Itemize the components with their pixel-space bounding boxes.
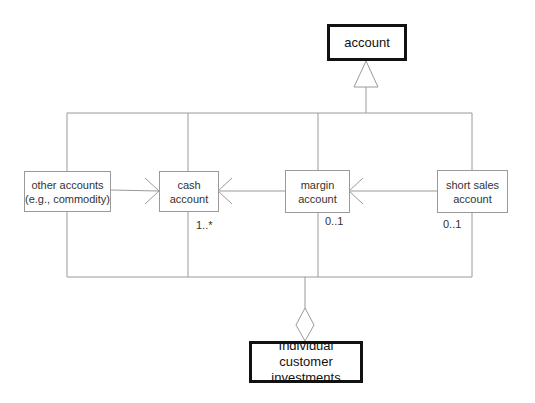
class-margin-account: margin account (285, 170, 350, 213)
class-other-line1: other accounts (25, 178, 110, 192)
class-individual-investments: Individual customer investments (249, 341, 363, 383)
class-account: account (327, 24, 407, 61)
multiplicity-short: 0..1 (443, 218, 461, 230)
class-margin-line1: margin (298, 178, 337, 192)
aggregation-diamond-icon (296, 308, 314, 341)
multiplicity-margin: 0..1 (325, 215, 343, 227)
generalization-triangle-icon (354, 61, 378, 87)
class-short-sales-account: short sales account (437, 170, 508, 213)
class-other-accounts: other accounts (e.g., commodity) (24, 171, 111, 212)
class-cash-line1: cash (170, 178, 209, 192)
class-investments-line2: investments (252, 370, 360, 386)
class-investments-line1: Individual customer (252, 338, 360, 370)
class-short-line1: short sales (446, 178, 499, 192)
class-margin-line2: account (298, 192, 337, 206)
multiplicity-cash: 1..* (196, 219, 213, 231)
class-other-line2: (e.g., commodity) (25, 192, 110, 206)
class-account-label: account (344, 35, 390, 51)
class-short-line2: account (446, 192, 499, 206)
class-cash-account: cash account (159, 171, 219, 212)
class-cash-line2: account (170, 192, 209, 206)
